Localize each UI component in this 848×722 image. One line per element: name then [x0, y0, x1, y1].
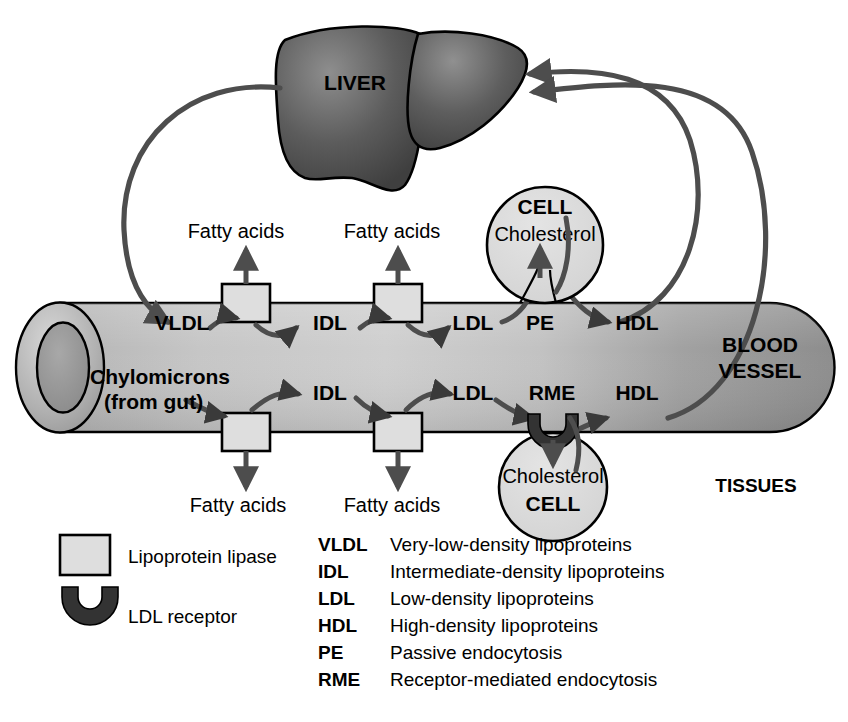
- legend-abbr: HDL: [318, 615, 357, 636]
- legend-abbreviations: VLDL Very-low-density lipoproteins IDL I…: [318, 534, 665, 690]
- label-idl-top: IDL: [313, 311, 347, 334]
- lipase-box: [222, 413, 270, 451]
- label-idl-bottom: IDL: [313, 381, 347, 404]
- cell-bottom-name: CELL: [526, 492, 581, 515]
- legend-abbr: PE: [318, 642, 343, 663]
- legend-abbr: LDL: [318, 588, 355, 609]
- cell-bottom-content: Cholesterol: [502, 465, 603, 487]
- legend-lipase-label: Lipoprotein lipase: [128, 546, 277, 567]
- legend-receptor-swatch: [62, 587, 118, 625]
- label-vldl: VLDL: [155, 311, 210, 334]
- legend-abbr: IDL: [318, 561, 349, 582]
- fatty-acids-top-label-1: Fatty acids: [188, 220, 285, 242]
- cell-top-content: Cholesterol: [494, 223, 595, 245]
- legend-symbols: Lipoprotein lipase LDL receptor: [60, 535, 277, 627]
- label-chylomicrons-line2: (from gut): [104, 390, 203, 413]
- label-hdl-bottom: HDL: [615, 381, 658, 404]
- legend-desc: Low-density lipoproteins: [390, 588, 594, 609]
- legend-abbr: RME: [318, 669, 360, 690]
- diagram-canvas: LIVER Fatty acids Fatty acids VLDL IDL L…: [0, 0, 848, 722]
- label-rme: RME: [529, 381, 576, 404]
- cell-top: CELL Cholesterol: [487, 187, 603, 303]
- legend-desc: Intermediate-density lipoproteins: [390, 561, 665, 582]
- legend-desc: Very-low-density lipoproteins: [390, 534, 632, 555]
- legend-lipase-swatch: [60, 535, 110, 575]
- fatty-acids-bottom-label-2: Fatty acids: [344, 494, 441, 516]
- tissues-label: TISSUES: [715, 475, 796, 496]
- liver-left-lobe: [276, 26, 429, 190]
- lipase-bottom-2: [374, 413, 422, 487]
- fatty-acids-top-label-2: Fatty acids: [344, 220, 441, 242]
- vessel-label-line1: BLOOD: [722, 333, 798, 356]
- legend-desc: High-density lipoproteins: [390, 615, 598, 636]
- label-ldl-top: LDL: [453, 311, 494, 334]
- legend-abbr: VLDL: [318, 534, 368, 555]
- fatty-acids-bottom-label-1: Fatty acids: [190, 494, 287, 516]
- liver-right-lobe: [408, 32, 527, 150]
- lipase-top-2: [374, 250, 422, 322]
- liver-label: LIVER: [324, 71, 386, 94]
- label-ldl-bottom: LDL: [453, 381, 494, 404]
- liver: LIVER: [276, 26, 527, 190]
- vessel-label-line2: VESSEL: [719, 359, 802, 382]
- legend-receptor-label: LDL receptor: [128, 606, 238, 627]
- legend-desc: Passive endocytosis: [390, 642, 562, 663]
- label-pe: PE: [526, 311, 554, 334]
- legend-desc: Receptor-mediated endocytosis: [390, 669, 657, 690]
- lipase-bottom-1: [222, 413, 270, 487]
- lipase-box: [374, 413, 422, 451]
- label-hdl-top: HDL: [615, 311, 658, 334]
- cell-top-name: CELL: [518, 195, 573, 218]
- vessel-lumen: [37, 323, 89, 413]
- label-chylomicrons-line1: Chylomicrons: [90, 365, 230, 388]
- lipase-top-1: [222, 250, 270, 322]
